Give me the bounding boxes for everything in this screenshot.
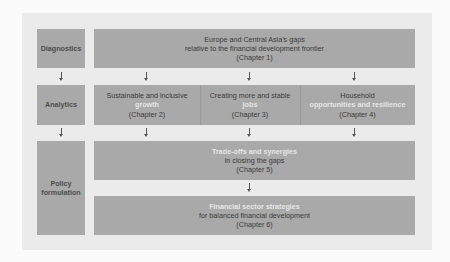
analytics-box-jobs: Creating more and stable jobs (Chapter 3… (200, 85, 300, 125)
policy-line1: Trade-offs and synergies (212, 147, 297, 156)
analytics-line2: growth (135, 100, 159, 109)
analytics-box-household: Household opportunities and resilience (… (300, 85, 415, 125)
chapter-label: (Chapter 1) (236, 53, 272, 62)
analytics-line1: Creating more and stable (210, 91, 291, 100)
arrow-down-icon (61, 128, 62, 135)
column-divider (200, 85, 201, 125)
stage-label: Policy formulation (41, 179, 81, 197)
stage-label: Diagnostics (41, 44, 82, 53)
arrow-down-icon (249, 128, 250, 135)
policy-line2: in closing the gaps (225, 156, 285, 165)
arrow-down-icon (354, 128, 355, 135)
stage-analytics: Analytics (37, 85, 85, 125)
chapter-label: (Chapter 4) (339, 110, 375, 119)
arrow-down-icon (61, 72, 62, 79)
analytics-line2: opportunities and resilience (310, 100, 406, 109)
policy-box-strategies: Financial sector strategies for balanced… (94, 196, 415, 235)
chapter-label: (Chapter 3) (232, 110, 268, 119)
diagnostics-box: Europe and Central Asia’s gaps relative … (94, 29, 415, 68)
arrow-down-icon (146, 128, 147, 135)
stage-label: Analytics (45, 100, 77, 109)
policy-line1: Financial sector strategies (209, 202, 300, 211)
arrow-down-icon (249, 72, 250, 79)
analytics-line1: Household (340, 91, 374, 100)
analytics-line2: jobs (243, 100, 258, 109)
diagnostics-line1: Europe and Central Asia’s gaps (204, 35, 305, 44)
chapter-label: (Chapter 2) (129, 110, 165, 119)
stage-diagnostics: Diagnostics (37, 29, 85, 68)
chapter-label: (Chapter 6) (236, 220, 272, 229)
arrow-down-icon (249, 183, 250, 190)
column-divider (300, 85, 301, 125)
analytics-box-growth: Sustainable and inclusive growth (Chapte… (94, 85, 200, 125)
diagnostics-line2: relative to the financial development fr… (185, 44, 324, 53)
policy-box-tradeoffs: Trade-offs and synergies in closing the … (94, 141, 415, 180)
arrow-down-icon (354, 72, 355, 79)
policy-line2: for balanced financial development (199, 211, 310, 220)
stage-policy-formulation: Policy formulation (37, 141, 85, 235)
chapter-label: (Chapter 5) (236, 165, 272, 174)
arrow-down-icon (146, 72, 147, 79)
analytics-line1: Sustainable and inclusive (106, 91, 187, 100)
